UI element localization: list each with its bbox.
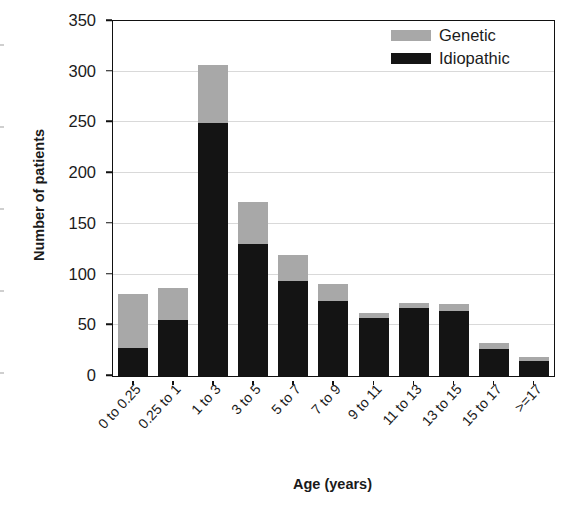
bar-segment-genetic (198, 65, 228, 124)
bar-stack[interactable] (359, 313, 389, 376)
bar-stack[interactable] (198, 65, 228, 376)
bar-segment-idiopathic (238, 244, 268, 376)
legend-label-genetic: Genetic (439, 27, 496, 44)
bar-segment-idiopathic (318, 301, 348, 376)
bar-segment-idiopathic (278, 281, 308, 376)
bar-segment-genetic (118, 294, 148, 348)
bar-segment-idiopathic (118, 348, 148, 376)
bar-stack[interactable] (238, 202, 268, 376)
y-axis-tick-label: 250 (16, 112, 96, 131)
x-axis-tick-label: 5 to 7 (268, 381, 304, 418)
bar-segment-genetic (318, 284, 348, 301)
x-axis-tick: >=17 (513, 381, 553, 451)
bar-segment-idiopathic (198, 123, 228, 376)
bar-stack[interactable] (118, 294, 148, 376)
y-axis-tick-label: 150 (16, 213, 96, 232)
y-axis-tick-label: 300 (16, 61, 96, 80)
y-axis-tick-label: 50 (16, 315, 96, 334)
x-axis-tick: 3 to 5 (232, 381, 272, 451)
bar-stack[interactable] (318, 284, 348, 376)
legend-swatch-genetic (391, 30, 431, 41)
bar-segment-idiopathic (519, 361, 549, 376)
bar-segment-genetic (238, 202, 268, 245)
x-axis-tick: 7 to 9 (312, 381, 352, 451)
bar-stack[interactable] (439, 304, 469, 376)
bar-stack[interactable] (158, 288, 188, 376)
legend-item-genetic: Genetic (391, 25, 510, 46)
bar-segment-idiopathic (359, 318, 389, 376)
y-axis-tick-label: 200 (16, 163, 96, 182)
y-axis-tick-label: 0 (16, 366, 96, 385)
x-axis-tick-label: 1 to 3 (188, 381, 224, 418)
bar-segment-idiopathic (479, 349, 509, 376)
legend-label-idiopathic: Idiopathic (439, 50, 510, 67)
bar-series-layer (113, 21, 554, 376)
y-axis-tick-label: 350 (16, 11, 96, 30)
y-axis-tick-label: 100 (16, 264, 96, 283)
bar-stack[interactable] (479, 343, 509, 376)
bar-stack[interactable] (519, 357, 549, 376)
x-axis-tick: 5 to 7 (272, 381, 312, 451)
x-axis-title: Age (years) (112, 476, 553, 492)
bar-segment-genetic (278, 255, 308, 280)
x-axis-tick: 1 to 3 (192, 381, 232, 451)
bar-stack[interactable] (278, 255, 308, 376)
x-axis-ticks: 0 to 0.250.25 to 11 to 33 to 55 to 77 to… (112, 375, 553, 455)
chart-figure: Number of patients 050100150200250300350… (0, 0, 578, 508)
bar-segment-genetic (439, 304, 469, 311)
legend-swatch-idiopathic (391, 53, 431, 64)
bar-segment-idiopathic (439, 311, 469, 376)
plot-area: Genetic Idiopathic (112, 20, 555, 377)
y-axis-ticks: 050100150200250300350 (0, 0, 110, 508)
bar-segment-genetic (158, 288, 188, 320)
x-axis-tick-label: 7 to 9 (309, 381, 345, 418)
legend-item-idiopathic: Idiopathic (391, 48, 510, 69)
x-axis-tick: 15 to 17 (473, 381, 513, 451)
x-axis-tick: 0.25 to 1 (152, 381, 192, 451)
legend: Genetic Idiopathic (391, 25, 510, 69)
x-axis-tick-label: 3 to 5 (228, 381, 264, 418)
bar-stack[interactable] (399, 303, 429, 376)
bar-segment-idiopathic (399, 308, 429, 376)
x-axis-tick-label: >=17 (511, 381, 544, 415)
bar-segment-idiopathic (158, 320, 188, 376)
